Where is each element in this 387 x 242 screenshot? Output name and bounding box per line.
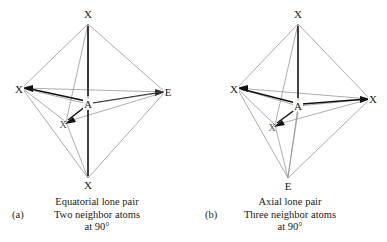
caption-line-2: Three neighbor atoms — [193, 209, 387, 222]
caption-line-1: Equatorial lone pair — [0, 196, 194, 209]
vertex-label-equatorial-left: X — [229, 84, 239, 95]
bond-arrowheads-a — [22, 85, 76, 124]
vertex-label-axial-top: X — [293, 9, 303, 20]
diagram-b — [193, 0, 387, 200]
vertex-label-central-atom: A — [83, 99, 93, 110]
vsepr-figure: X X E X X A Equatorial lone pair (a) Two… — [0, 0, 387, 242]
vertex-label-equatorial-right: E — [164, 87, 173, 98]
vertex-label-axial-bottom: X — [83, 180, 93, 191]
vertex-label-equatorial-right: X — [368, 94, 378, 105]
lone-pair-direction-a — [92, 92, 162, 103]
vertex-label-axial-top: X — [83, 9, 93, 20]
panel-equatorial-lone-pair: X X E X X A Equatorial lone pair (a) Two… — [0, 0, 194, 242]
vertex-label-equatorial-front: X — [267, 122, 276, 133]
diagram-a — [0, 0, 194, 200]
bond-arrowheads-b — [237, 85, 370, 127]
panel-axial-lone-pair: X X X X E A Axial lone pair (b) Three ne… — [193, 0, 387, 242]
caption-line-3: at 90° — [193, 221, 387, 234]
vertex-label-central-atom: A — [293, 101, 303, 112]
vertex-label-axial-bottom: E — [284, 181, 293, 192]
vertex-label-equatorial-front: X — [58, 119, 67, 130]
outline-edges-a — [22, 24, 165, 178]
trigonal-bipyramid-b — [193, 0, 387, 200]
caption-line-2: Two neighbor atoms — [0, 209, 194, 222]
caption-line-1: Axial lone pair — [193, 196, 387, 209]
caption-line-3: at 90° — [0, 221, 194, 234]
vertex-label-equatorial-left: X — [14, 84, 24, 95]
lone-pair-direction-b — [288, 112, 298, 176]
bonds-b — [241, 26, 367, 123]
trigonal-bipyramid-a — [0, 0, 194, 200]
